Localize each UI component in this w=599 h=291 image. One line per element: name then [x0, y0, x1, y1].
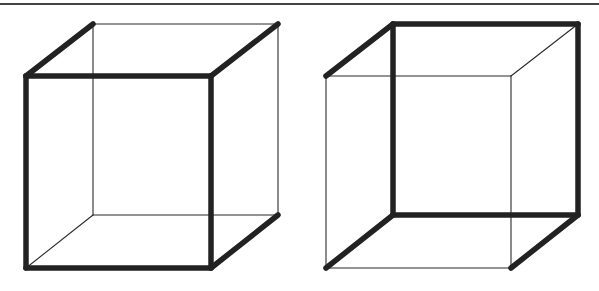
necker-cube-right: [326, 24, 578, 268]
necker-cubes-figure: [0, 0, 599, 291]
cube-edge-thick: [326, 24, 393, 76]
cube-edge-thin: [511, 24, 578, 76]
cube-edge-thick: [211, 24, 278, 76]
cube-edge-thick: [511, 215, 578, 268]
cube-edge-thick: [26, 24, 93, 76]
necker-cube-left: [26, 24, 278, 268]
cube-edge-thin: [26, 215, 93, 268]
cube-edge-thick: [326, 215, 393, 268]
cube-edge-thick: [211, 215, 278, 268]
